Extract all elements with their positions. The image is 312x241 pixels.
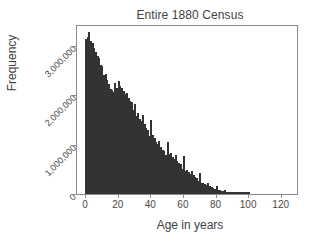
chart-title: Entire 1880 Census — [80, 8, 300, 22]
x-tick-mark — [150, 194, 151, 198]
x-tick-mark — [118, 194, 119, 198]
plot-area: 01,000,0002,000,0003,000,000 02040608010… — [76, 25, 298, 195]
x-tick-label: 100 — [240, 200, 257, 210]
x-tick-label: 80 — [210, 200, 221, 210]
x-tick-mark — [248, 194, 249, 198]
x-tick-label: 0 — [82, 200, 88, 210]
x-axis-title: Age in years — [80, 218, 300, 232]
x-tick-label: 120 — [272, 200, 289, 210]
bars-layer — [77, 26, 297, 194]
histogram-figure: Entire 1880 Census Frequency 01,000,0002… — [0, 0, 312, 241]
x-tick-mark — [281, 194, 282, 198]
x-tick-label: 60 — [177, 200, 188, 210]
x-tick-label: 20 — [112, 200, 123, 210]
x-tick-mark — [216, 194, 217, 198]
y-axis-title: Frequency — [5, 3, 19, 123]
y-tick-label: 1,000,000 — [43, 141, 80, 178]
x-tick-mark — [85, 194, 86, 198]
x-tick-label: 40 — [145, 200, 156, 210]
y-tick-label: 3,000,000 — [43, 42, 80, 79]
x-tick-mark — [183, 194, 184, 198]
y-tick-label: 2,000,000 — [43, 91, 80, 128]
